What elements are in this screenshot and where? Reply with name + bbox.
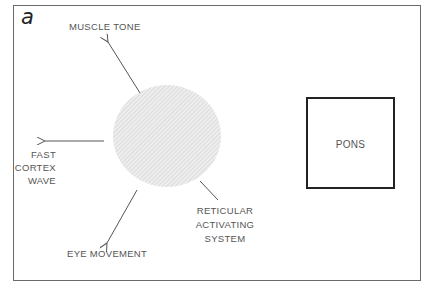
label-eye-movement: EYE MOVEMENT bbox=[67, 247, 147, 260]
label-line: WAVE bbox=[13, 174, 56, 187]
label-reticular-activating-system: RETICULAR ACTIVATING SYSTEM bbox=[190, 204, 260, 246]
arrow-muscle-tone bbox=[108, 42, 140, 93]
pons-label: PONS bbox=[308, 139, 393, 150]
label-line: CORTEX bbox=[13, 161, 56, 174]
reticular-activating-system-circle bbox=[113, 85, 221, 187]
label-line: ACTIVATING bbox=[190, 218, 260, 232]
arrow-eye-movement bbox=[107, 190, 137, 243]
label-line: SYSTEM bbox=[190, 232, 260, 246]
pons-box: PONS bbox=[306, 97, 395, 189]
label-muscle-tone: MUSCLE TONE bbox=[69, 20, 141, 33]
leader-line-reticular bbox=[200, 181, 218, 200]
label-line: RETICULAR bbox=[190, 204, 260, 218]
label-fast-cortex-wave: FAST CORTEX WAVE bbox=[13, 148, 56, 187]
label-line: FAST bbox=[13, 148, 56, 161]
